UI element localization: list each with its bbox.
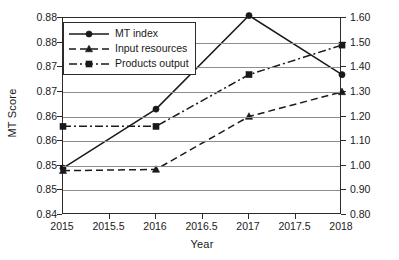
data-point-marker <box>60 123 66 129</box>
legend-label: Products output <box>115 58 189 69</box>
data-point-marker <box>339 72 345 78</box>
x-tick-label: 2015 <box>50 221 73 232</box>
y-axis-left-ticks: 0.880.880.870.870.860.860.850.850.84 <box>0 17 62 214</box>
series-line <box>63 92 342 171</box>
x-tick-label: 2017 <box>236 221 259 232</box>
x-tick-label: 2016.5 <box>185 221 217 232</box>
legend-label: MT index <box>115 28 158 39</box>
y-tick-label-left: 0.85 <box>6 160 62 171</box>
x-axis-title: Year <box>62 238 342 250</box>
x-tick-mark <box>248 214 249 219</box>
x-axis-ticks: 20152015.520162016.520172017.52018 <box>62 214 341 236</box>
x-tick-label: 2016 <box>143 221 166 232</box>
legend-swatch <box>68 57 110 71</box>
chart-figure: MT Score 0.880.880.870.870.860.860.850.8… <box>0 0 399 260</box>
legend-swatch <box>68 42 110 56</box>
y-axis-right-ticks: 1.601.501.401.301.201.101.000.900.80 <box>341 17 399 214</box>
x-tick-label: 2017.5 <box>278 221 310 232</box>
x-tick-mark <box>295 214 296 219</box>
y-tick-label-left: 0.86 <box>6 111 62 122</box>
y-tick-label-left: 0.87 <box>6 86 62 97</box>
y-tick-label-left: 0.87 <box>6 61 62 72</box>
data-point-marker <box>246 72 252 78</box>
legend-item-input-resources: Input resources <box>68 41 189 56</box>
data-point-marker <box>153 106 159 112</box>
y-tick-label-left: 0.88 <box>6 12 62 23</box>
legend-swatch <box>68 27 110 41</box>
legend-item-products-output: Products output <box>68 56 189 71</box>
x-tick-mark <box>155 214 156 219</box>
y-tick-label-left: 0.84 <box>6 209 62 220</box>
x-tick-mark <box>202 214 203 219</box>
x-tick-label: 2015.5 <box>92 221 124 232</box>
y-tick-label-left: 0.85 <box>6 184 62 195</box>
legend-item-mt-index: MT index <box>68 26 189 41</box>
data-point-marker <box>246 12 252 18</box>
chart-legend: MT indexInput resourcesProducts output <box>63 22 196 75</box>
data-point-marker <box>339 42 345 48</box>
y-tick-label-left: 0.86 <box>6 135 62 146</box>
y-tick-label-left: 0.88 <box>6 37 62 48</box>
x-tick-label: 2018 <box>329 221 352 232</box>
data-point-marker <box>153 123 159 129</box>
legend-label: Input resources <box>115 43 187 54</box>
x-tick-mark <box>109 214 110 219</box>
